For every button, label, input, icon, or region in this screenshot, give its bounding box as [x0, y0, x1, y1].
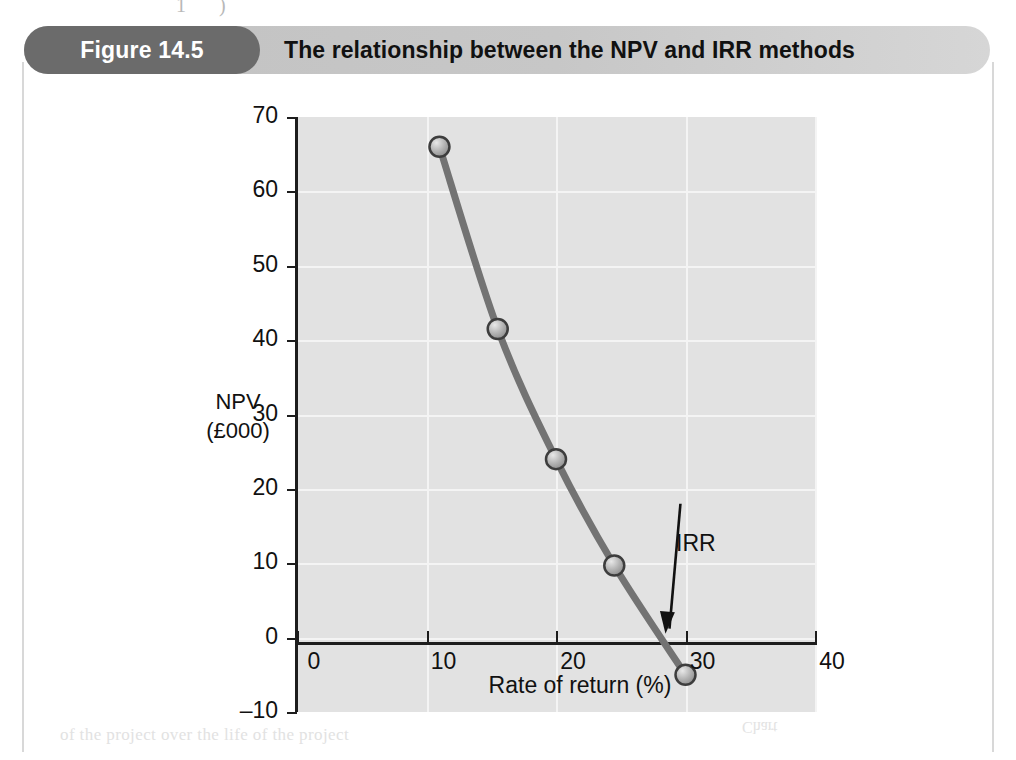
y-tick-mark — [287, 489, 297, 491]
x-tick-label: 20 — [543, 648, 603, 675]
gridline-horizontal — [297, 340, 815, 342]
y-tick-mark — [287, 638, 297, 640]
y-tick-mark — [287, 712, 297, 714]
y-tick-label: –10 — [218, 697, 278, 724]
gridline-horizontal — [297, 563, 815, 565]
x-axis-title: Rate of return (%) — [430, 672, 730, 699]
gridline-horizontal — [297, 489, 815, 491]
gridline-horizontal — [297, 191, 815, 193]
y-tick-mark — [287, 117, 297, 119]
irr-annotation-label: IRR — [676, 530, 716, 557]
x-tick-label: 10 — [414, 648, 474, 675]
y-tick-label: 70 — [218, 102, 278, 129]
gridline-horizontal — [297, 415, 815, 417]
x-tick-mark — [427, 631, 429, 642]
x-axis-line — [295, 642, 817, 645]
x-tick-label: 30 — [673, 648, 733, 675]
y-tick-mark — [287, 563, 297, 565]
y-tick-mark — [287, 415, 297, 417]
gridline-vertical — [815, 117, 817, 712]
x-tick-mark — [556, 631, 558, 642]
y-tick-label: 50 — [218, 251, 278, 278]
y-tick-mark — [287, 191, 297, 193]
y-tick-mark — [287, 340, 297, 342]
y-tick-label: 40 — [218, 325, 278, 352]
y-tick-label: 0 — [218, 623, 278, 650]
y-tick-mark — [287, 266, 297, 268]
x-tick-label: 0 — [284, 648, 344, 675]
x-tick-mark — [686, 631, 688, 642]
x-tick-mark — [815, 631, 817, 642]
y-tick-label: 20 — [218, 474, 278, 501]
x-tick-label: 40 — [802, 648, 862, 675]
plot-region — [297, 117, 815, 712]
y-tick-label: 60 — [218, 176, 278, 203]
x-tick-mark — [297, 631, 299, 642]
y-tick-label: 10 — [218, 548, 278, 575]
gridline-horizontal — [297, 266, 815, 268]
y-tick-label: 30 — [218, 400, 278, 427]
chart-area: NPV (£000) Rate of return (%) IRR 010203… — [0, 0, 1016, 760]
